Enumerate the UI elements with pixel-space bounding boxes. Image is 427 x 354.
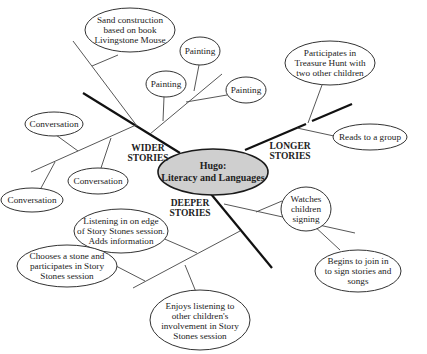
center-node: Hugo: Literacy and Languages xyxy=(158,149,268,195)
node-text-line: Begins to join in xyxy=(328,256,389,266)
node-text-line: Listening in on edge xyxy=(83,216,158,226)
node-text-line: Sand construction xyxy=(97,15,163,25)
node-text-line: of Story Stones session. xyxy=(77,226,165,236)
node-text-line: Stones session xyxy=(173,331,227,341)
node-text-line: participates in Story xyxy=(30,261,104,271)
watches-connector xyxy=(256,201,282,212)
node-text-line: to sign stories and xyxy=(325,266,392,276)
branch-label-line: STORIES xyxy=(169,208,210,218)
branch-label-line: WIDER xyxy=(131,143,164,153)
node-text-line: Treasure Hunt with xyxy=(294,58,366,68)
painting-upper-connector xyxy=(194,65,199,91)
branch-label-line: STORIES xyxy=(269,151,310,161)
node-text-line: Conversation xyxy=(8,195,57,205)
node-text-line: Chooses a stone and xyxy=(30,251,105,261)
node-text-line: other children's xyxy=(172,311,229,321)
node-sand-construction: Sand construction based on book Livingst… xyxy=(85,8,175,52)
node-treasure-hunt: Participates in Treasure Hunt with two o… xyxy=(285,41,375,85)
conversation-bottom-connector xyxy=(41,162,55,188)
node-text-line: Participates in xyxy=(304,48,357,58)
reads-connector xyxy=(297,128,334,136)
node-painting-right: Painting xyxy=(226,77,266,103)
painting-lower-connector xyxy=(163,97,164,121)
branch-label-wider: WIDER STORIES xyxy=(127,143,168,163)
node-text-line: signing xyxy=(292,214,319,224)
node-text-line: Reads to a group xyxy=(339,132,401,142)
node-text-line: Enjoys listening to xyxy=(166,301,235,311)
branch-label-line: DEEPER xyxy=(171,198,210,208)
node-text-line: songs xyxy=(348,276,369,286)
enjoys-connector xyxy=(185,265,196,292)
node-text-line: Painting xyxy=(151,79,182,89)
node-chooses-stone: Chooses a stone and participates in Stor… xyxy=(17,245,117,287)
node-text-line: Painting xyxy=(231,85,262,95)
branch-label-longer: LONGER STORIES xyxy=(269,141,310,161)
node-text-line: based on book xyxy=(103,25,156,35)
branch-label-line: STORIES xyxy=(127,153,168,163)
branch-label-deeper: DEEPER STORIES xyxy=(169,198,210,218)
node-text-line: two other children xyxy=(296,68,364,78)
deeper-main-line xyxy=(211,194,272,268)
node-text-line: Adds information xyxy=(88,236,153,246)
node-conversation-top: Conversation xyxy=(25,112,83,136)
branch-label-line: LONGER xyxy=(269,141,310,151)
node-begins-to-join: Begins to join in to sign stories and so… xyxy=(315,250,401,292)
node-text-line: Watches xyxy=(291,194,322,204)
node-conversation-mid: Conversation xyxy=(68,168,128,194)
listening-connector xyxy=(160,237,197,253)
node-text-line: Conversation xyxy=(30,119,79,129)
conversation-top-connector xyxy=(56,135,78,151)
node-watches-signing: Watches children signing xyxy=(281,187,331,231)
node-conversation-bottom: Conversation xyxy=(1,188,63,212)
node-text-line: Conversation xyxy=(74,176,123,186)
longer-main-line-b xyxy=(312,104,352,121)
sand-connector xyxy=(92,55,118,66)
center-title: Hugo: xyxy=(200,160,227,171)
node-text-line: Livingstone Mouse xyxy=(94,35,165,45)
mind-map: Sand construction based on book Livingst… xyxy=(0,0,427,354)
node-painting-upper: Painting xyxy=(180,37,220,65)
node-text-line: children xyxy=(291,204,322,214)
node-reads-to-group: Reads to a group xyxy=(333,124,407,150)
node-text-line: Painting xyxy=(185,46,216,56)
node-text-line: Stones session xyxy=(40,271,94,281)
wider-twig-sand xyxy=(73,41,137,126)
node-text-line: involvement in Story xyxy=(161,321,239,331)
node-enjoys-listening: Enjoys listening to other children's inv… xyxy=(150,290,250,350)
center-subtitle: Literacy and Languages xyxy=(161,172,264,183)
conversation-mid-connector xyxy=(101,138,111,168)
chooses-connector xyxy=(116,266,145,281)
node-painting-lower: Painting xyxy=(146,71,186,97)
